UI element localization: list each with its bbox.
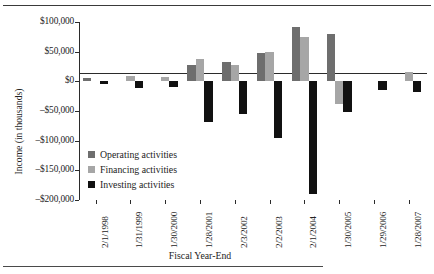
x-axis-tick — [270, 200, 271, 204]
x-axis-tick — [165, 200, 166, 204]
x-axis-tick-labels: 2/1/19981/31/19991/30/20001/28/20012/3/2… — [79, 200, 427, 252]
bar-operating — [83, 78, 91, 81]
y-axis-tick-labels: $100,000$50,000$0–$50,000–$100,000–$150,… — [0, 22, 74, 200]
x-axis-tick — [235, 200, 236, 204]
y-axis-tick — [75, 170, 80, 171]
x-axis-tick — [374, 200, 375, 204]
chart-legend: Operating activitiesFinancing activities… — [88, 147, 218, 192]
x-axis-title: Fiscal Year-End — [40, 250, 360, 261]
bar-group — [222, 22, 247, 200]
bar-group — [361, 22, 386, 200]
bar-group — [327, 22, 352, 200]
bar-financing — [196, 59, 204, 81]
legend-swatch-icon — [88, 151, 95, 158]
x-axis-tick — [339, 200, 340, 204]
top-divider-rule — [3, 5, 431, 6]
bar-investing — [204, 81, 212, 121]
bar-investing — [309, 81, 317, 194]
legend-swatch-icon — [88, 166, 95, 173]
bar-group — [396, 22, 421, 200]
x-axis-tick-label: 1/28/2007 — [413, 188, 423, 248]
y-axis-tick-label: –$200,000 — [36, 194, 75, 204]
y-axis-tick — [75, 52, 80, 53]
bar-operating — [187, 65, 195, 81]
y-axis-tick-label: –$100,000 — [36, 135, 75, 145]
x-axis-tick — [96, 200, 97, 204]
x-axis-tick — [130, 200, 131, 204]
bar-investing — [378, 81, 386, 89]
x-axis-tick-label: 2/1/1998 — [100, 188, 110, 248]
x-axis-tick — [304, 200, 305, 204]
bar-financing — [300, 37, 308, 82]
bar-financing — [126, 76, 134, 81]
x-axis-tick-label: 2/1/2004 — [308, 188, 318, 248]
y-axis-tick-label: $0 — [65, 75, 74, 85]
y-axis-line — [79, 22, 80, 200]
legend-item: Operating activities — [88, 147, 218, 162]
bar-investing — [343, 81, 351, 111]
y-axis-tick — [75, 22, 80, 23]
bar-operating — [257, 53, 265, 81]
bar-investing — [100, 81, 108, 83]
y-axis-tick-label: –$50,000 — [40, 105, 74, 115]
x-axis-tick — [200, 200, 201, 204]
y-axis-tick-label: $50,000 — [45, 46, 74, 56]
bar-operating — [222, 62, 230, 81]
bar-investing — [413, 81, 421, 92]
bar-operating — [327, 34, 335, 81]
x-axis-tick-label: 1/28/2001 — [204, 188, 214, 248]
bar-investing — [135, 81, 143, 88]
bar-group — [257, 22, 282, 200]
legend-label: Financing activities — [100, 164, 177, 175]
bar-financing — [161, 77, 169, 81]
bar-financing — [231, 65, 239, 82]
bottom-divider-rule — [3, 266, 323, 267]
y-axis-tick-label: –$150,000 — [36, 164, 75, 174]
y-axis-tick — [75, 111, 80, 112]
y-axis-tick — [75, 81, 80, 82]
bar-investing — [274, 81, 282, 138]
bar-financing — [335, 81, 343, 104]
x-axis-title-wrap: Fiscal Year-End — [40, 250, 360, 261]
legend-item: Financing activities — [88, 162, 218, 177]
legend-label: Operating activities — [100, 149, 177, 160]
bar-operating — [292, 27, 300, 81]
bar-investing — [169, 81, 177, 86]
y-axis-tick — [75, 141, 80, 142]
x-axis-tick-label: 1/30/2000 — [169, 188, 179, 248]
bar-investing — [239, 81, 247, 114]
legend-item: Investing activities — [88, 177, 218, 192]
x-axis-tick-label: 1/31/1999 — [134, 188, 144, 248]
x-axis-tick-label: 2/2/2003 — [274, 188, 284, 248]
x-axis-tick-label: 1/30/2005 — [343, 188, 353, 248]
bar-financing — [405, 72, 413, 81]
x-axis-tick-label: 2/3/2002 — [239, 188, 249, 248]
y-axis-tick-label: $100,000 — [40, 16, 74, 26]
bar-financing — [265, 52, 273, 82]
x-axis-tick-label: 1/29/2006 — [378, 188, 388, 248]
figure-container: Income (in thousands) $100,000$50,000$0–… — [0, 0, 434, 274]
x-axis-tick — [409, 200, 410, 204]
bar-group — [292, 22, 317, 200]
legend-label: Investing activities — [100, 179, 174, 190]
legend-swatch-icon — [88, 181, 95, 188]
